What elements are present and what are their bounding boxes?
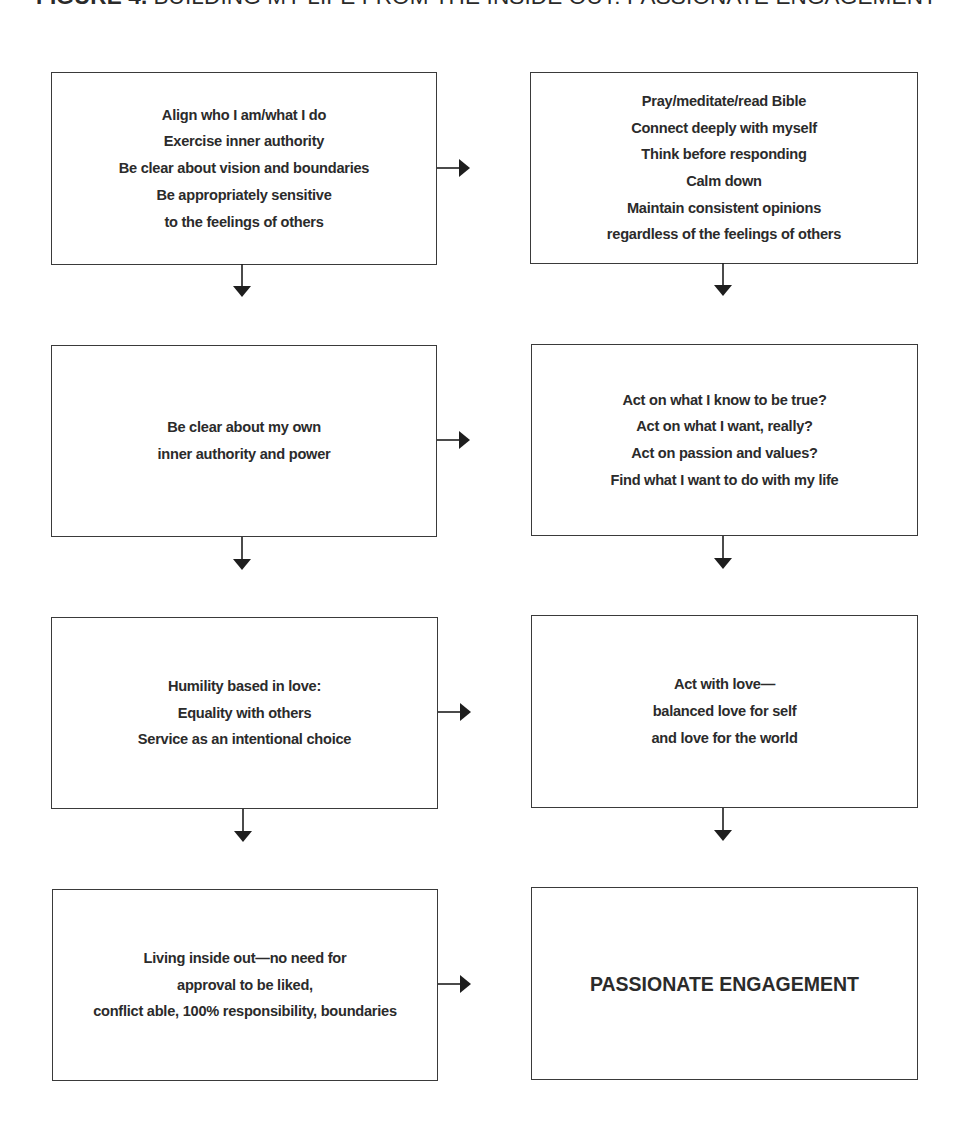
box-line: Exercise inner authority <box>164 128 324 155</box>
box-line: Living inside out—no need for <box>144 945 347 972</box>
box-line: Find what I want to do with my life <box>611 467 839 494</box>
box-pray: Pray/meditate/read Bible Connect deeply … <box>530 72 918 264</box>
arrow-down-icon <box>714 536 732 570</box>
box-text: Be clear about my own inner authority an… <box>158 414 331 467</box>
arrow-down-icon <box>234 809 252 843</box>
figure-caption: BUILDING MY LIFE FROM THE INSIDE OUT: PA… <box>153 0 937 9</box>
box-line: Maintain consistent opinions <box>627 195 821 222</box>
box-line-heading: PASSIONATE ENGAGEMENT <box>590 971 859 997</box>
box-line: Humility based in love: <box>168 673 321 700</box>
box-line: Align who I am/what I do <box>162 102 326 129</box>
figure-title: FIGURE 4.BUILDING MY LIFE FROM THE INSID… <box>36 0 936 8</box>
figure-label: FIGURE 4. <box>36 0 147 9</box>
box-line: Act with love— <box>674 671 775 698</box>
box-text: Align who I am/what I do Exercise inner … <box>119 102 370 236</box>
arrow-down-icon <box>714 263 732 297</box>
box-line: balanced love for self <box>653 698 797 725</box>
arrow-down-icon <box>714 808 732 842</box>
box-line: and love for the world <box>651 725 797 752</box>
arrow-right-icon <box>437 159 471 177</box>
box-line: to the feelings of others <box>164 209 323 236</box>
box-line: Act on what I know to be true? <box>622 387 826 414</box>
box-line: Be clear about vision and boundaries <box>119 155 370 182</box>
box-line: Act on what I want, really? <box>636 413 813 440</box>
box-act-with-love: Act with love— balanced love for self an… <box>531 615 918 808</box>
box-line: regardless of the feelings of others <box>607 221 841 248</box>
arrow-right-icon <box>437 431 471 449</box>
box-line: Think before responding <box>641 141 806 168</box>
box-line: conflict able, 100% responsibility, boun… <box>93 998 397 1025</box>
arrow-right-icon <box>438 703 472 721</box>
box-line: Calm down <box>686 168 762 195</box>
box-text: Act with love— balanced love for self an… <box>651 671 797 751</box>
arrow-right-icon <box>438 975 472 993</box>
box-line: Be appropriately sensitive <box>156 182 331 209</box>
box-line: Pray/meditate/read Bible <box>642 88 806 115</box>
box-inner-authority: Be clear about my own inner authority an… <box>51 345 437 537</box>
box-line: Be clear about my own <box>167 414 321 441</box>
arrow-down-icon <box>233 264 251 298</box>
box-line: Service as an intentional choice <box>138 726 351 753</box>
box-align: Align who I am/what I do Exercise inner … <box>51 72 437 265</box>
box-line: Act on passion and values? <box>631 440 818 467</box>
box-text: Humility based in love: Equality with ot… <box>138 673 351 753</box>
box-passionate-engagement: PASSIONATE ENGAGEMENT <box>531 887 918 1080</box>
box-living-inside-out: Living inside out—no need for approval t… <box>52 889 438 1081</box>
box-humility: Humility based in love: Equality with ot… <box>51 617 438 809</box>
box-line: Connect deeply with myself <box>631 115 817 142</box>
box-line: inner authority and power <box>158 441 331 468</box>
arrow-down-icon <box>233 537 251 571</box>
box-line: approval to be liked, <box>177 972 313 999</box>
box-act-on-truth: Act on what I know to be true? Act on wh… <box>531 344 918 536</box>
box-text: Act on what I know to be true? Act on wh… <box>611 387 839 494</box>
box-text: Living inside out—no need for approval t… <box>93 945 397 1025</box>
box-line: Equality with others <box>178 700 312 727</box>
box-text: Pray/meditate/read Bible Connect deeply … <box>607 88 841 248</box>
box-text: PASSIONATE ENGAGEMENT <box>590 971 859 997</box>
